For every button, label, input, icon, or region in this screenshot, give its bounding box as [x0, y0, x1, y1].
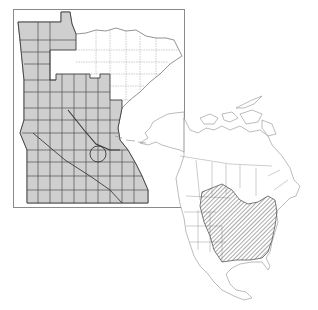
distribution-map — [0, 0, 318, 310]
